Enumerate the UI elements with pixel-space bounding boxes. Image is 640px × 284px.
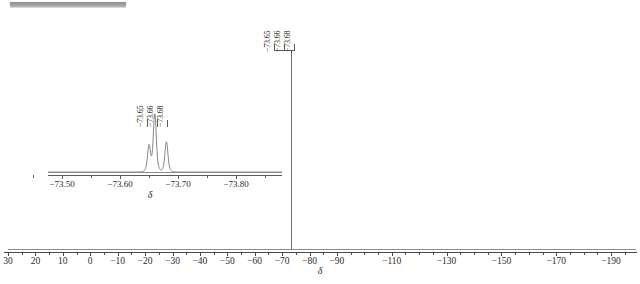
main-axis-tick-label: −10 xyxy=(110,256,125,266)
main-axis-tick-label: −40 xyxy=(192,256,207,266)
main-axis-minor-tick xyxy=(570,252,571,255)
main-axis-minor-tick xyxy=(584,252,585,255)
main-axis-tick-label: −60 xyxy=(247,256,262,266)
main-axis-tick-label: 20 xyxy=(31,256,41,266)
inset-annotation-label-1: −73.65 xyxy=(136,106,145,127)
main-axis-minor-tick xyxy=(186,252,187,255)
main-spectrum-baseline xyxy=(8,249,636,250)
main-axis-minor-tick xyxy=(488,252,489,255)
main-axis-minor-tick xyxy=(351,252,352,255)
main-axis-tick-label: −170 xyxy=(546,256,566,266)
inset-axis-tick-label: −73.60 xyxy=(107,179,132,189)
main-axis-tick-label: −70 xyxy=(275,256,290,266)
main-axis-minor-tick xyxy=(22,252,23,255)
main-axis-tick-label: −150 xyxy=(492,256,512,266)
inset-annotation-leg-1 xyxy=(147,120,148,127)
inset-axis-minor-tick xyxy=(265,175,266,178)
main-axis-minor-tick xyxy=(460,252,461,255)
main-axis-minor-tick xyxy=(515,252,516,255)
main-axis-tick-label: −20 xyxy=(138,256,153,266)
main-axis-minor-tick xyxy=(474,252,475,255)
inset-axis-minor-tick xyxy=(149,175,150,178)
main-axis-tick-label: −190 xyxy=(601,256,621,266)
main-axis-tick-label: −80 xyxy=(302,256,317,266)
main-axis-tick-label: −130 xyxy=(437,256,457,266)
main-axis-minor-tick xyxy=(597,252,598,255)
inset-axis-tick-label: −73.50 xyxy=(49,179,74,189)
inset-axis-minor-tick xyxy=(207,175,208,178)
inset-axis-tick-label: −73.70 xyxy=(165,179,190,189)
inset-axis-tick-label: −73.80 xyxy=(223,179,248,189)
main-axis-minor-tick xyxy=(433,252,434,255)
inset-axis-minor-tick xyxy=(33,175,34,178)
inset-annotation-leg-2 xyxy=(157,120,158,127)
main-axis-tick-label: −30 xyxy=(165,256,180,266)
main-axis-minor-tick xyxy=(268,252,269,255)
main-axis-minor-tick xyxy=(77,252,78,255)
inset-x-axis-line xyxy=(48,175,282,176)
inset-baseline xyxy=(48,172,282,173)
main-axis-minor-tick xyxy=(625,252,626,255)
annotation-stem xyxy=(291,50,292,53)
main-axis-minor-tick xyxy=(419,252,420,255)
main-axis-minor-tick xyxy=(378,252,379,255)
main-peak-line xyxy=(291,52,292,250)
main-annotation-label-1: −73.65 xyxy=(263,31,272,52)
main-axis-title: δ xyxy=(318,265,323,276)
main-axis-minor-tick xyxy=(159,252,160,255)
inset-annotation-group: −73.65 −73.66 −73.68 xyxy=(145,85,185,127)
main-axis-minor-tick xyxy=(296,252,297,255)
inset-axis-title: δ xyxy=(148,189,153,200)
main-axis-minor-tick xyxy=(104,252,105,255)
inset-annotation-leg-3 xyxy=(167,120,168,127)
inset-spectrum-plot: −73.50−73.60−73.70−73.80 −73.65 −73.66 −… xyxy=(40,82,290,202)
main-axis-tick-label: 10 xyxy=(58,256,68,266)
main-axis-minor-tick xyxy=(529,252,530,255)
main-axis-tick-label: −50 xyxy=(220,256,235,266)
main-axis-tick-label: −90 xyxy=(329,256,344,266)
main-axis-tick-label: 0 xyxy=(88,256,93,266)
main-axis-minor-tick xyxy=(49,252,50,255)
main-axis-minor-tick xyxy=(241,252,242,255)
main-peak-annotation-group: −73.65 −73.66 −73.68 xyxy=(271,6,313,52)
main-axis-minor-tick xyxy=(323,252,324,255)
inset-axis-minor-tick xyxy=(91,175,92,178)
main-axis-tick-label: 30 xyxy=(3,256,13,266)
main-axis-minor-tick xyxy=(543,252,544,255)
main-axis-tick-label: −110 xyxy=(382,256,401,266)
main-axis-minor-tick xyxy=(405,252,406,255)
main-axis-minor-tick xyxy=(131,252,132,255)
main-axis-minor-tick xyxy=(214,252,215,255)
main-axis-minor-tick xyxy=(364,252,365,255)
